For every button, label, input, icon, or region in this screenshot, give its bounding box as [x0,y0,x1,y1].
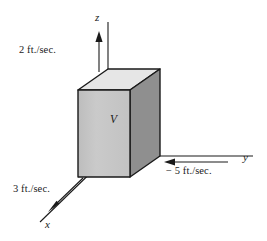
axis-label-x: x [45,219,50,230]
velocity-arrow-x-shaft [54,178,83,206]
velocity-label-y: − 5 ft./sec. [166,166,212,177]
velocity-arrow-z-head [95,31,102,42]
box-front-face [78,90,130,177]
control-volume-label: V [110,114,117,126]
axis-label-y: y [243,152,248,163]
velocity-arrow-x-head [48,201,59,212]
velocity-label-x: 3 ft./sec. [13,184,50,195]
velocity-label-z: 2 ft./sec. [19,45,56,56]
axis-label-z: z [95,12,99,23]
velocity-vector-box-diagram: 2 ft./sec. − 5 ft./sec. 3 ft./sec. z y x… [0,0,267,241]
diagram-canvas [0,0,267,241]
